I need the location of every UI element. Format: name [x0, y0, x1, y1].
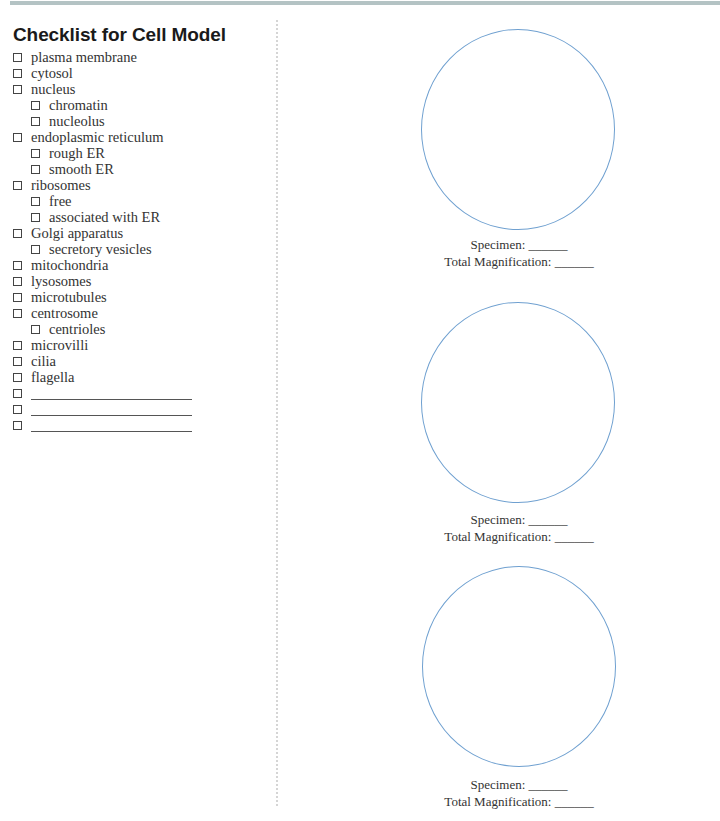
checkbox[interactable]	[31, 165, 40, 174]
checkbox[interactable]	[13, 421, 22, 430]
checklist-item[interactable]: lysosomes	[13, 273, 192, 289]
checklist-subitem[interactable]: nucleolus	[13, 113, 192, 129]
checkbox[interactable]	[31, 245, 40, 254]
magnification-label[interactable]: Total Magnification: ______	[389, 253, 649, 270]
checkbox[interactable]	[13, 53, 22, 62]
checklist-item[interactable]: plasma membrane	[13, 49, 192, 65]
checklist-blank-item[interactable]	[13, 417, 192, 433]
checkbox[interactable]	[13, 405, 22, 414]
checklist-item[interactable]: centrosome	[13, 305, 192, 321]
microscope-field-circle-3[interactable]	[422, 566, 616, 767]
checklist-item[interactable]: cilia	[13, 353, 192, 369]
checkbox[interactable]	[13, 69, 22, 78]
checklist-subitem[interactable]: free	[13, 193, 192, 209]
checklist: plasma membrane cytosol nucleus chromati…	[13, 49, 192, 433]
checklist-blank-item[interactable]	[13, 401, 192, 417]
page-title: Checklist for Cell Model	[13, 24, 226, 46]
checklist-item[interactable]: cytosol	[13, 65, 192, 81]
specimen-label[interactable]: Specimen: ______	[389, 776, 649, 793]
magnification-label[interactable]: Total Magnification: ______	[389, 528, 649, 545]
blank-write-in-line[interactable]	[31, 403, 192, 416]
checkbox[interactable]	[13, 389, 22, 398]
checklist-item[interactable]: endoplasmic reticulum	[13, 129, 192, 145]
checkbox[interactable]	[13, 85, 22, 94]
checkbox[interactable]	[31, 325, 40, 334]
checkbox[interactable]	[13, 229, 22, 238]
field-caption-1: Specimen: ______ Total Magnification: __…	[389, 236, 649, 270]
checkbox[interactable]	[31, 101, 40, 110]
checklist-subitem[interactable]: centrioles	[13, 321, 192, 337]
field-caption-3: Specimen: ______ Total Magnification: __…	[389, 776, 649, 810]
checklist-item[interactable]: microvilli	[13, 337, 192, 353]
checklist-subitem[interactable]: rough ER	[13, 145, 192, 161]
checklist-subitem[interactable]: associated with ER	[13, 209, 192, 225]
checkbox[interactable]	[13, 373, 22, 382]
dotted-divider	[276, 20, 278, 806]
checkbox[interactable]	[13, 277, 22, 286]
checkbox[interactable]	[31, 197, 40, 206]
checklist-subitem[interactable]: chromatin	[13, 97, 192, 113]
checkbox[interactable]	[31, 117, 40, 126]
blank-write-in-line[interactable]	[31, 419, 192, 432]
checklist-item[interactable]: nucleus	[13, 81, 192, 97]
field-caption-2: Specimen: ______ Total Magnification: __…	[389, 511, 649, 545]
specimen-label[interactable]: Specimen: ______	[389, 236, 649, 253]
specimen-label[interactable]: Specimen: ______	[389, 511, 649, 528]
microscope-field-circle-2[interactable]	[421, 302, 615, 503]
checkbox[interactable]	[13, 341, 22, 350]
checklist-subitem[interactable]: secretory vesicles	[13, 241, 192, 257]
checklist-item[interactable]: mitochondria	[13, 257, 192, 273]
checklist-item[interactable]: ribosomes	[13, 177, 192, 193]
checkbox[interactable]	[13, 293, 22, 302]
blank-write-in-line[interactable]	[31, 387, 192, 400]
checklist-subitem[interactable]: smooth ER	[13, 161, 192, 177]
magnification-label[interactable]: Total Magnification: ______	[389, 793, 649, 810]
checkbox[interactable]	[13, 309, 22, 318]
microscope-field-circle-1[interactable]	[421, 29, 615, 230]
checkbox[interactable]	[31, 213, 40, 222]
checkbox[interactable]	[13, 133, 22, 142]
checklist-item[interactable]: microtubules	[13, 289, 192, 305]
checkbox[interactable]	[13, 357, 22, 366]
checklist-item[interactable]: flagella	[13, 369, 192, 385]
top-rule	[10, 1, 720, 5]
checkbox[interactable]	[31, 149, 40, 158]
checklist-blank-item[interactable]	[13, 385, 192, 401]
checklist-item[interactable]: Golgi apparatus	[13, 225, 192, 241]
checkbox[interactable]	[13, 181, 22, 190]
checkbox[interactable]	[13, 261, 22, 270]
